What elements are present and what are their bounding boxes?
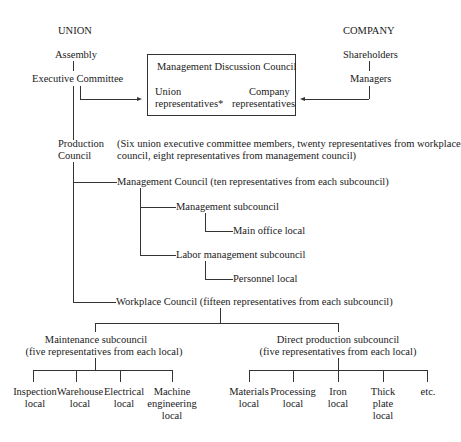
connector-line [140,255,176,256]
discussion-council-title: Management Discussion Council [157,61,296,73]
iron-local-node: Iron local [328,386,348,410]
connector-line [76,370,77,382]
connector-line [33,370,173,371]
connector-line [73,61,74,71]
personnel-local-node: Personnel local [233,273,297,285]
company-heading: COMPANY [343,25,395,37]
materials-local-node: Materials local [229,386,269,410]
executive-committee-node: Executive Committee [32,73,123,85]
connector-line [80,99,138,100]
management-council-node: Management Council (ten representatives … [117,176,389,188]
warehouse-local-node: Warehouse local [57,386,103,410]
company-representatives-label: representatives [232,98,295,110]
thick-plate-local-node: Thick plate local [371,386,396,422]
direct-production-subcouncil-node: Direct production subcouncil [277,334,399,346]
connector-line [205,261,206,279]
production-council-note: council, eight representatives from mana… [117,150,356,162]
connector-line [33,370,34,382]
production-council-note: (Six union executive committee members, … [117,138,461,150]
processing-local-node: Processing local [270,386,316,410]
connector-line [249,370,250,382]
connector-line [220,308,221,323]
connector-line [369,61,370,71]
maintenance-subcouncil-note: (five representatives from each local) [26,346,183,358]
connector-line [304,99,369,100]
union-representatives-label: representatives* [155,98,223,110]
connector-line [140,188,141,256]
labor-management-subcouncil-node: Labor management subcouncil [176,249,305,261]
direct-production-subcouncil-note: (five representatives from each local) [260,346,417,358]
union-heading: UNION [58,25,92,37]
main-office-local-node: Main office local [233,225,305,237]
managers-node: Managers [350,73,391,85]
connector-line [73,162,74,303]
workplace-council-node: Workplace Council (fifteen representativ… [116,296,393,308]
connector-line [293,370,294,382]
connector-line [95,323,96,332]
etc-local-node: etc. [421,386,436,398]
connector-line [205,279,233,280]
connector-line [73,182,117,183]
connector-line [338,358,339,370]
connector-line [73,86,74,140]
machine-engineering-local-node: Machine engineering local [147,386,197,422]
connector-line [338,323,339,332]
connector-line [383,370,384,382]
connector-line [338,370,339,382]
connector-line [73,302,116,303]
connector-line [172,370,173,382]
connector-line [427,370,428,382]
connector-line [205,213,206,231]
connector-line [80,86,81,99]
assembly-node: Assembly [55,49,97,61]
shareholders-node: Shareholders [343,49,398,61]
inspection-local-node: Inspection local [13,386,57,410]
electrical-local-node: Electrical local [104,386,144,410]
company-representatives-label: Company [249,86,290,98]
arrow-right-icon [137,97,142,101]
connector-line [120,370,121,382]
arrow-left-icon [300,97,305,101]
union-representatives-label: Union [155,86,181,98]
connector-line [95,323,339,324]
connector-line [369,86,370,99]
management-subcouncil-node: Management subcouncil [176,201,279,213]
production-council-node: Council [58,150,91,162]
production-council-node: Production [58,138,104,150]
maintenance-subcouncil-node: Maintenance subcouncil [45,334,147,346]
connector-line [205,231,233,232]
connector-line [95,358,96,370]
connector-line [140,207,176,208]
